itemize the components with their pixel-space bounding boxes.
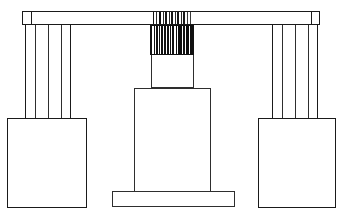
center-base-plate	[113, 192, 235, 207]
top-beam	[23, 12, 320, 25]
top-beam-body	[23, 12, 320, 25]
center-hatched-pier	[150, 25, 193, 54]
center-pedestal-block	[135, 89, 211, 192]
left-footing-block	[8, 119, 87, 208]
center-upper-column	[152, 55, 194, 88]
drawing-canvas: Schematic elevation view of a bridge-typ…	[0, 0, 342, 217]
right-footing-block	[259, 119, 336, 208]
engineering-drawing	[0, 0, 342, 217]
